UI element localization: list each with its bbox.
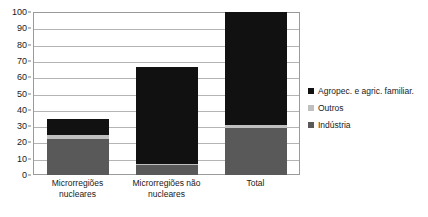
bar-segment[interactable] [136, 165, 198, 175]
bar-group[interactable] [136, 12, 198, 175]
legend: Agropec. e agric. familiar.OutrosIndústr… [308, 82, 426, 133]
y-tick-label: 40 [17, 105, 27, 114]
y-tick-label: 60 [17, 73, 27, 82]
bar-segment[interactable] [136, 164, 198, 165]
legend-swatch-icon [308, 105, 314, 111]
bar-segment[interactable] [136, 67, 198, 164]
y-tick-mark [28, 28, 31, 29]
legend-label: Agropec. e agric. familiar. [318, 86, 414, 96]
y-tick-mark [28, 44, 31, 45]
bar-segment[interactable] [47, 135, 109, 139]
bar-segment[interactable] [47, 119, 109, 135]
legend-swatch-icon [308, 122, 314, 128]
y-tick-mark [28, 158, 31, 159]
y-tick-label: 80 [17, 40, 27, 49]
y-tick-mark [28, 12, 31, 13]
y-tick-label: 70 [17, 56, 27, 65]
bar-group[interactable] [225, 12, 287, 175]
bar-group[interactable] [47, 12, 109, 175]
legend-item[interactable]: Agropec. e agric. familiar. [308, 82, 426, 99]
legend-label: Indústria [318, 120, 351, 130]
y-axis: 1009080706050403020100 [0, 12, 31, 175]
x-axis-labels: MicrorregiõesnuclearesMicrorregiões nãon… [33, 178, 300, 212]
legend-swatch-icon [308, 88, 314, 94]
x-axis-label: Microrregiõesnucleares [33, 178, 122, 200]
legend-item[interactable]: Indústria [308, 116, 426, 133]
y-tick-label: 20 [17, 138, 27, 147]
y-tick-mark [28, 175, 31, 176]
bars-layer [33, 12, 300, 175]
y-tick-mark [28, 60, 31, 61]
stacked-bar-chart: 1009080706050403020100 Microrregiõesnucl… [0, 0, 428, 217]
x-axis-label: Total [211, 178, 300, 189]
y-tick-label: 90 [17, 24, 27, 33]
y-tick-mark [28, 109, 31, 110]
y-tick-label: 30 [17, 122, 27, 131]
y-tick-label: 50 [17, 89, 27, 98]
x-axis-label: Microrregiões nãonucleares [122, 178, 211, 200]
y-tick-mark [28, 93, 31, 94]
legend-item[interactable]: Outros [308, 99, 426, 116]
y-tick-label: 10 [17, 154, 27, 163]
bar-segment[interactable] [47, 139, 109, 175]
y-tick-mark [28, 126, 31, 127]
y-tick-label: 100 [12, 8, 27, 17]
bar-segment[interactable] [225, 125, 287, 127]
bar-segment[interactable] [225, 128, 287, 175]
y-tick-label: 0 [22, 171, 27, 180]
legend-label: Outros [318, 103, 344, 113]
y-tick-mark [28, 77, 31, 78]
bar-segment[interactable] [225, 12, 287, 125]
y-tick-mark [28, 142, 31, 143]
